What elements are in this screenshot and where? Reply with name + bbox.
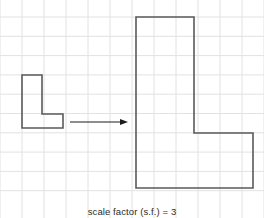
arrow-head-icon: [120, 119, 128, 125]
figure-canvas: scale factor (s.f.) = 3: [0, 0, 264, 218]
small-l-shape: [22, 75, 63, 128]
figure-layer: [0, 0, 264, 218]
large-l-shape: [136, 17, 253, 188]
enlargement-arrow: [70, 119, 128, 125]
scale-factor-caption: scale factor (s.f.) = 3: [0, 205, 264, 218]
